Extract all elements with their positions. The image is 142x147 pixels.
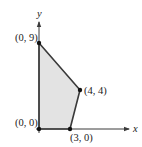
vertex-label-4-4: (4, 4) — [84, 85, 107, 97]
vertex-point-4-4 — [78, 88, 82, 92]
vertex-point-3-0 — [68, 127, 72, 131]
x-axis-label: x — [132, 123, 138, 134]
region-diagram: y x (0, 9) (4, 4) (0, 0) (3, 0) — [0, 0, 142, 147]
y-axis-label: y — [36, 8, 42, 19]
vertex-label-origin: (0, 0) — [15, 117, 38, 129]
vertex-label-3-0: (3, 0) — [70, 132, 93, 144]
vertex-label-0-9: (0, 9) — [15, 32, 38, 44]
